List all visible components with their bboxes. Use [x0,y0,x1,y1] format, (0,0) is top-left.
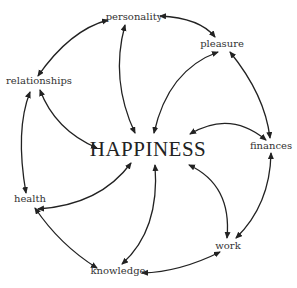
edge-health-happiness [38,163,131,209]
nodes: HAPPINESS personality pleasure relations… [6,11,292,276]
edge-knowledge-happiness [122,165,156,264]
happiness-diagram: HAPPINESS personality pleasure relations… [0,0,297,288]
node-knowledge: knowledge [91,265,146,276]
edge-personality-happiness [119,25,135,133]
node-health: health [14,193,47,204]
node-relationships: relationships [6,75,72,86]
center-node-happiness: HAPPINESS [90,137,207,161]
diagram-canvas: HAPPINESS personality pleasure relations… [0,0,297,288]
node-finances: finances [250,140,292,151]
edge-work-happiness [189,165,228,238]
edge-work-knowledge [142,252,220,273]
edge-knowledge-health [35,208,97,268]
node-personality: personality [106,11,163,22]
edge-finances-work [236,153,271,238]
node-work: work [215,240,241,251]
edge-relationships-happiness [40,90,97,148]
edge-relationships-personality [38,20,108,76]
edge-personality-pleasure [160,16,215,37]
node-pleasure: pleasure [200,38,244,49]
edge-pleasure-happiness [154,52,218,133]
edge-health-relationships [21,92,30,193]
